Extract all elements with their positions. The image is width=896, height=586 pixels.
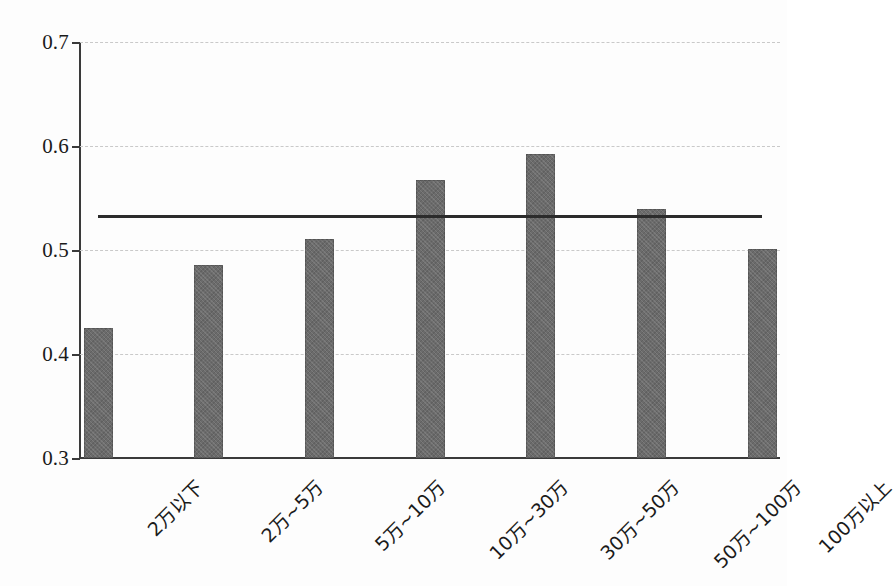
bar <box>637 209 666 458</box>
bar <box>416 180 445 458</box>
y-axis-tick-label: 0.3 <box>42 446 69 471</box>
x-axis-tick-label: 100万以上 <box>811 473 896 558</box>
x-axis-tick-label: 5万~10万 <box>368 473 451 556</box>
y-axis-tick-label: 0.7 <box>42 30 69 55</box>
reference-line <box>98 215 762 218</box>
y-axis-tick-mark <box>72 250 80 252</box>
plot-area: 0.70.60.50.40.3 <box>80 42 780 458</box>
x-axis-tick-label: 30万~50万 <box>593 473 684 564</box>
y-axis-tick-label: 0.4 <box>42 342 69 367</box>
bar <box>84 328 113 458</box>
x-axis-tick-label: 2万以下 <box>140 473 208 541</box>
y-axis-tick-label: 0.5 <box>42 238 69 263</box>
x-axis-tick-label: 10万~30万 <box>482 473 573 564</box>
bar <box>194 265 223 458</box>
y-axis-tick-mark <box>72 42 80 44</box>
bar <box>305 239 334 458</box>
bar <box>748 249 777 458</box>
y-axis-tick-mark <box>72 146 80 148</box>
gridline <box>80 146 780 147</box>
x-axis-tick-label: 2万~5万 <box>254 473 328 547</box>
bar <box>526 154 555 458</box>
y-axis-tick-mark <box>72 458 80 460</box>
gridline <box>80 42 780 43</box>
x-axis-tick-label: 50万~100万 <box>707 473 807 573</box>
y-axis-tick-mark <box>72 354 80 356</box>
x-axis-tick-labels: 2万以下2万~5万5万~10万10万~30万30万~50万50万~100万100… <box>80 459 780 586</box>
y-axis-tick-label: 0.6 <box>42 134 69 159</box>
